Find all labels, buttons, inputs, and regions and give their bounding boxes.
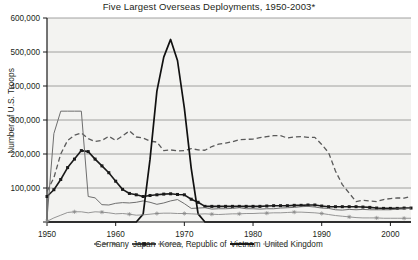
y-tick-label: 400,000 bbox=[10, 82, 40, 91]
data-point bbox=[162, 193, 165, 196]
chart-plot-area: 100,000200,000300,000400,000500,000600,0… bbox=[0, 0, 418, 260]
data-point bbox=[313, 204, 316, 207]
data-point bbox=[224, 205, 227, 208]
data-point bbox=[52, 188, 55, 191]
data-point bbox=[327, 205, 330, 208]
data-point bbox=[45, 219, 49, 223]
data-point bbox=[46, 195, 49, 198]
data-point bbox=[121, 188, 124, 191]
data-point bbox=[286, 204, 289, 207]
data-point bbox=[258, 205, 261, 208]
x-tick-label: 1970 bbox=[175, 230, 194, 239]
data-point bbox=[265, 205, 268, 208]
data-point bbox=[375, 207, 378, 210]
data-point bbox=[155, 193, 158, 196]
data-point bbox=[80, 149, 83, 152]
data-point bbox=[127, 212, 131, 216]
data-point bbox=[190, 198, 193, 201]
data-point bbox=[348, 205, 351, 208]
y-tick-label: 300,000 bbox=[10, 116, 40, 125]
data-point bbox=[100, 164, 103, 167]
data-point bbox=[176, 193, 179, 196]
data-point bbox=[252, 205, 255, 208]
data-point bbox=[279, 204, 282, 207]
x-tick-label: 1990 bbox=[313, 230, 332, 239]
data-point bbox=[142, 195, 145, 198]
data-point bbox=[368, 206, 371, 209]
data-point bbox=[169, 192, 172, 195]
data-point bbox=[66, 166, 69, 169]
legend-item-korea-republic-of[interactable]: Korea, Republic of bbox=[157, 239, 228, 249]
x-tick-label: 1960 bbox=[107, 230, 126, 239]
legend-item-japan[interactable]: Japan bbox=[131, 239, 157, 249]
data-point bbox=[402, 216, 406, 220]
legend-item-germany[interactable]: Germany bbox=[93, 239, 131, 249]
legend-item-vietnam[interactable]: Vietnam bbox=[229, 239, 263, 249]
data-point bbox=[334, 205, 337, 208]
data-point bbox=[183, 193, 186, 196]
data-point bbox=[59, 178, 62, 181]
data-point bbox=[94, 158, 97, 161]
x-tick-label: 2000 bbox=[381, 230, 400, 239]
data-point bbox=[375, 216, 379, 220]
data-point bbox=[320, 211, 324, 215]
data-point bbox=[100, 210, 104, 214]
data-point bbox=[217, 205, 220, 208]
data-point bbox=[231, 205, 234, 208]
data-point bbox=[182, 211, 186, 215]
data-point bbox=[107, 171, 110, 174]
data-point bbox=[293, 204, 296, 207]
data-point bbox=[237, 212, 241, 216]
data-point bbox=[272, 204, 275, 207]
data-point bbox=[355, 205, 358, 208]
data-point bbox=[87, 150, 90, 153]
data-point bbox=[73, 158, 76, 161]
y-tick-label: 600,000 bbox=[10, 14, 40, 23]
chart-legend: GermanyJapanKorea, Republic ofVietnamUni… bbox=[0, 239, 418, 249]
data-point bbox=[320, 205, 323, 208]
data-point bbox=[292, 210, 296, 214]
x-tick-label: 1950 bbox=[38, 230, 57, 239]
y-tick-label: 200,000 bbox=[10, 150, 40, 159]
data-point bbox=[114, 180, 117, 183]
y-tick-label: 500,000 bbox=[10, 48, 40, 57]
data-point bbox=[149, 194, 152, 197]
data-point bbox=[361, 206, 364, 209]
data-point bbox=[245, 205, 248, 208]
chart-container: Five Largest Overseas Deployments, 1950-… bbox=[0, 0, 418, 260]
data-point bbox=[210, 212, 214, 216]
data-point bbox=[128, 192, 131, 195]
x-tick-label: 1980 bbox=[244, 230, 263, 239]
data-point bbox=[341, 205, 344, 208]
legend-item-united-kingdom[interactable]: United Kingdom bbox=[262, 239, 324, 249]
data-point bbox=[135, 193, 138, 196]
data-point bbox=[155, 211, 159, 215]
data-point bbox=[347, 215, 351, 219]
y-tick-label: 100,000 bbox=[10, 184, 40, 193]
data-point bbox=[265, 211, 269, 215]
data-point bbox=[210, 205, 213, 208]
